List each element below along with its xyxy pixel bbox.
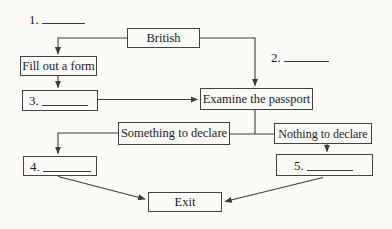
node-something-to-declare: Something to declare [118, 122, 230, 145]
connector-blank5-to-exit [225, 178, 323, 202]
blank-1-line [42, 13, 85, 24]
node-examine-the-passport-label: Examine the passport [203, 93, 311, 106]
blank-3-line [42, 95, 88, 106]
blank-5-line [307, 160, 353, 171]
blank-1-label: 1. [29, 13, 85, 26]
blank-4-line [43, 161, 91, 172]
node-exit-label: Exit [175, 196, 196, 209]
blank-3-number: 3. [29, 94, 39, 107]
connector-blank4-to-exit [58, 177, 145, 200]
connector-british-to-fill-form [58, 38, 127, 54]
connector-something-to-blank4 [58, 133, 118, 154]
node-fill-out-a-form: Fill out a form [20, 56, 97, 76]
connector-british-to-examine [200, 38, 255, 86]
flowchart-canvas: 1. British 2. Fill out a form 3. Examine… [0, 0, 392, 229]
node-exit: Exit [148, 192, 222, 212]
node-nothing-to-declare-label: Nothing to declare [278, 128, 367, 140]
node-blank-3: 3. [22, 90, 98, 111]
blank-2-label: 2. [271, 51, 329, 64]
blank-4-number: 4. [30, 160, 40, 173]
blank-1-number: 1. [29, 12, 39, 27]
node-something-to-declare-label: Something to declare [121, 127, 227, 140]
node-nothing-to-declare: Nothing to declare [274, 123, 372, 144]
node-examine-the-passport: Examine the passport [200, 88, 313, 110]
node-british: British [127, 28, 200, 48]
node-blank-5: 5. [276, 154, 373, 176]
node-fill-out-a-form-label: Fill out a form [22, 60, 95, 73]
blank-2-number: 2. [271, 50, 281, 65]
blank-2-line [284, 51, 329, 62]
node-blank-4: 4. [23, 156, 97, 176]
node-british-label: British [146, 32, 180, 45]
blank-5-number: 5. [294, 159, 304, 172]
